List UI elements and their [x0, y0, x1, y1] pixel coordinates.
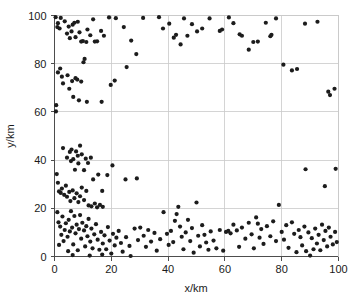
data-point: [231, 223, 235, 227]
data-point: [78, 194, 82, 198]
data-point: [88, 33, 92, 37]
data-point: [54, 109, 58, 113]
data-point: [198, 244, 202, 248]
data-point: [333, 230, 337, 234]
data-point: [107, 15, 111, 19]
data-point: [207, 16, 211, 20]
data-point: [308, 253, 312, 257]
data-point: [100, 100, 104, 104]
data-point: [75, 191, 79, 195]
data-point: [252, 246, 256, 250]
data-point: [77, 30, 81, 34]
data-point: [86, 161, 90, 165]
data-point: [106, 225, 110, 229]
data-point: [101, 241, 105, 245]
data-point: [220, 27, 224, 31]
data-point: [84, 157, 88, 161]
y-tick-labels: 020406080100: [28, 10, 46, 263]
data-point: [155, 249, 159, 253]
data-point: [60, 186, 64, 190]
data-point: [67, 87, 71, 91]
data-point: [277, 203, 281, 207]
data-point: [174, 33, 178, 37]
data-point: [284, 223, 288, 227]
y-tick-label: 60: [34, 106, 46, 118]
data-point: [268, 234, 272, 238]
data-point: [318, 248, 322, 252]
data-point: [184, 230, 188, 234]
data-point: [179, 42, 183, 46]
data-point: [331, 242, 335, 246]
data-point: [102, 34, 106, 38]
data-point: [84, 40, 88, 44]
data-point: [65, 73, 69, 77]
data-point: [247, 221, 251, 225]
data-point: [274, 16, 278, 20]
data-point: [75, 223, 79, 227]
data-point: [274, 239, 278, 243]
data-point: [54, 103, 58, 107]
data-point: [84, 224, 88, 228]
scatter-plot-figure: 020406080100 020406080100 x/km y/km: [0, 0, 353, 300]
data-point: [167, 22, 171, 26]
data-point: [182, 16, 186, 20]
data-point: [142, 234, 146, 238]
data-point: [310, 236, 314, 240]
data-point: [58, 66, 62, 70]
x-tick-label: 60: [219, 263, 231, 275]
data-point: [192, 251, 196, 255]
data-point: [320, 223, 324, 227]
data-point: [125, 65, 129, 69]
data-point: [157, 15, 161, 19]
data-point: [75, 78, 79, 82]
data-point: [281, 63, 285, 67]
data-point: [280, 230, 284, 234]
data-point: [56, 220, 60, 224]
data-point: [204, 240, 208, 244]
data-point: [79, 237, 83, 241]
data-point: [303, 22, 307, 26]
data-point: [99, 230, 103, 234]
data-point: [54, 15, 58, 19]
data-point: [78, 144, 82, 148]
data-point: [186, 218, 190, 222]
data-point: [71, 157, 75, 161]
data-point: [88, 253, 92, 257]
data-point: [71, 95, 75, 99]
data-point: [121, 250, 125, 254]
data-point: [251, 40, 255, 44]
data-point: [122, 25, 126, 29]
data-point: [76, 161, 80, 165]
data-point: [315, 241, 319, 245]
data-point: [76, 154, 80, 158]
data-point: [85, 100, 89, 104]
data-point: [290, 220, 294, 224]
data-point: [209, 229, 213, 233]
data-point: [113, 243, 117, 247]
data-point: [211, 238, 215, 242]
data-point: [298, 235, 302, 239]
data-point: [111, 232, 115, 236]
data-point: [178, 225, 182, 229]
data-point: [240, 34, 244, 38]
data-point: [261, 242, 265, 246]
data-point: [90, 246, 94, 250]
data-point: [117, 229, 121, 233]
data-point: [129, 38, 133, 42]
data-point: [334, 167, 338, 171]
data-point: [158, 237, 162, 241]
data-point: [72, 214, 76, 218]
data-point: [282, 238, 286, 242]
data-point: [247, 48, 251, 52]
data-point: [77, 98, 81, 102]
data-point: [180, 235, 184, 239]
data-point: [167, 243, 171, 247]
data-point: [290, 68, 294, 72]
data-point: [152, 231, 156, 235]
data-point: [127, 244, 131, 248]
data-point: [56, 21, 60, 25]
data-point: [73, 35, 77, 39]
data-point: [185, 34, 189, 38]
data-point: [71, 188, 75, 192]
data-point: [65, 156, 69, 160]
